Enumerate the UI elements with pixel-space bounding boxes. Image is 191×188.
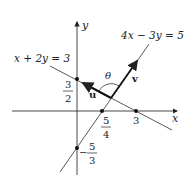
frac-3-2-den: 2 (65, 93, 71, 104)
label-3: 3 (133, 115, 139, 126)
frac-3-2-num: 3 (65, 79, 71, 90)
frac-5-3-num: 5 (89, 141, 95, 152)
vector-u (83, 83, 111, 98)
x-axis-label: x (172, 112, 179, 125)
point-y-int-line1 (75, 77, 79, 81)
equation-line2: 4x − 3y = 5 (120, 29, 184, 41)
vector-v-label: v (131, 73, 139, 84)
y-axis-label: y (81, 19, 89, 32)
point-x-int-line2 (100, 109, 104, 113)
frac-5-3-den: 3 (89, 155, 95, 166)
angle-label: θ (105, 70, 111, 81)
frac-neg-sign: − (79, 147, 87, 158)
frac-5-4-num: 5 (103, 115, 109, 126)
point-x-int-line1 (134, 109, 138, 113)
diagram: y x x + 2y = 3 4x − 3y = 5 u v θ 3 2 5 4… (0, 0, 191, 188)
equation-line1: x + 2y = 3 (14, 52, 70, 64)
vector-u-label: u (89, 89, 96, 100)
frac-5-4-den: 4 (103, 129, 109, 140)
